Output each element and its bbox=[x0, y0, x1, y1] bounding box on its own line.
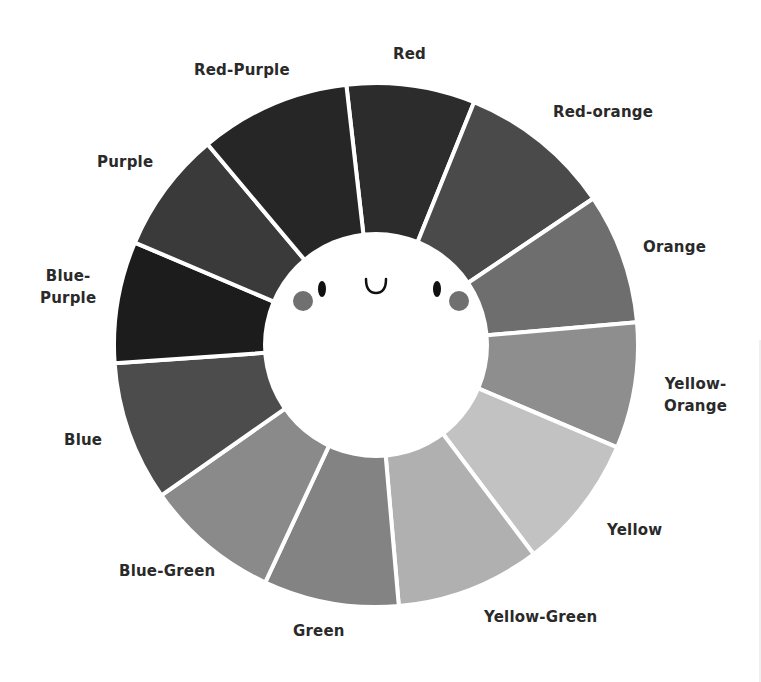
label-red-orange: Red-orange bbox=[553, 101, 653, 123]
right-eye-icon bbox=[433, 281, 441, 297]
label-red: Red bbox=[393, 43, 426, 65]
label-purple: Purple bbox=[97, 151, 153, 173]
label-orange: Orange bbox=[643, 236, 706, 258]
label-red-purple: Red-Purple bbox=[194, 59, 290, 81]
label-blue-purple-line1: Blue- bbox=[40, 265, 96, 287]
label-blue-purple-line2: Purple bbox=[40, 287, 96, 309]
center-face-circle bbox=[263, 232, 489, 458]
label-blue: Blue bbox=[64, 429, 102, 451]
label-yellow-orange-line2: Orange bbox=[664, 395, 727, 417]
right-cheek-icon bbox=[449, 291, 469, 311]
label-green: Green bbox=[293, 620, 345, 642]
label-yellow-orange: Yellow- Orange bbox=[664, 373, 727, 417]
left-eye-icon bbox=[318, 281, 326, 297]
label-blue-purple: Blue- Purple bbox=[40, 265, 96, 309]
label-blue-green: Blue-Green bbox=[119, 560, 215, 582]
label-yellow-green: Yellow-Green bbox=[484, 606, 597, 628]
label-yellow: Yellow bbox=[607, 519, 662, 541]
left-cheek-icon bbox=[293, 291, 313, 311]
label-yellow-orange-line1: Yellow- bbox=[664, 373, 727, 395]
